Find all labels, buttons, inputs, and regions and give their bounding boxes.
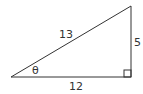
hypotenuse-label: 13	[59, 28, 73, 41]
right-angle-marker	[124, 70, 131, 77]
opposite-label: 5	[134, 36, 141, 49]
adjacent-label: 12	[69, 80, 83, 93]
angle-theta-label: θ	[32, 64, 39, 77]
triangle-outline	[11, 6, 131, 77]
right-triangle-diagram: 13 5 θ 12	[0, 0, 143, 94]
